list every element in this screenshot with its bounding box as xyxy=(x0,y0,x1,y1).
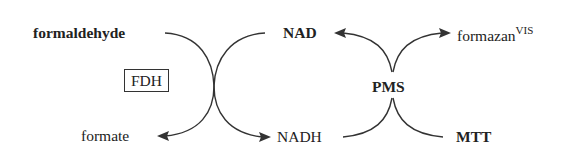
node-formate: formate xyxy=(81,128,129,144)
enzyme-box-fdh: FDH xyxy=(124,69,169,92)
node-mtt: MTT xyxy=(456,129,491,145)
arc-pms-to-formazan xyxy=(393,33,442,72)
arc-mtt-to-pms xyxy=(393,98,443,137)
node-nadh: NADH xyxy=(277,129,322,145)
formazan-label: formazan xyxy=(457,27,516,44)
node-nad: NAD xyxy=(283,25,317,41)
node-pms: PMS xyxy=(372,79,405,95)
node-formaldehyde: formaldehyde xyxy=(33,25,125,41)
formazan-superscript: VIS xyxy=(516,24,534,36)
arc-nad-to-nadh xyxy=(214,33,265,137)
arc-nadh-to-pms xyxy=(343,98,392,137)
enzyme-label: FDH xyxy=(131,72,162,89)
arc-pms-to-nad xyxy=(343,33,392,72)
reaction-diagram: formaldehyde formate FDH NAD NADH PMS MT… xyxy=(0,0,585,160)
node-formazan: formazanVIS xyxy=(457,25,533,44)
arc-formaldehyde-to-formate xyxy=(165,33,214,136)
